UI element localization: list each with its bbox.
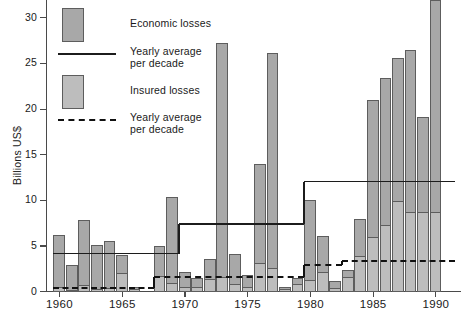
bar-1982 [329, 281, 341, 292]
legend-label-yearly-average-dashed-line1: Yearly average [130, 111, 202, 124]
bar-1971 [191, 278, 203, 292]
bar-1989 [417, 117, 429, 292]
x-tick-1975 [247, 292, 248, 297]
y-tick-10 [40, 200, 46, 201]
bar-1964 [104, 241, 116, 292]
x-tick-1965 [122, 292, 123, 297]
y-tick-label-30: 30 [10, 12, 37, 23]
bar-1980 [304, 200, 316, 292]
y-tick-5 [40, 245, 46, 246]
bar-segment-insured-1977 [267, 268, 279, 292]
legend-label-economic-losses: Economic losses [130, 17, 211, 30]
y-tick-20 [40, 109, 46, 110]
bar-segment-economic-1964 [104, 241, 116, 292]
bar-segment-insured-1986 [380, 225, 392, 292]
bar-segment-insured-1969 [166, 283, 178, 292]
y-tick-label-5: 5 [10, 240, 37, 251]
legend-swatch-economic-icon [62, 8, 84, 42]
bar-segment-insured-1983 [342, 277, 354, 292]
legend-label-yearly-average-solid-line1: Yearly average [130, 45, 202, 58]
bar-segment-insured-1980 [304, 280, 316, 292]
legend-label-insured-losses: Insured losses [130, 84, 200, 97]
avg-solid-segment-1 [179, 223, 305, 225]
x-tick-label-1980: 1980 [288, 298, 334, 310]
avg-dashed-riser-3 [341, 261, 343, 265]
y-tick-label-25: 25 [10, 57, 37, 68]
x-tick-1990 [435, 292, 436, 297]
bar-segment-economic-1962 [78, 220, 90, 292]
bar-1988 [405, 50, 417, 292]
bar-segment-economic-1977 [267, 53, 279, 292]
bar-segment-insured-1978 [279, 289, 291, 292]
bar-segment-insured-1990 [430, 212, 442, 292]
x-tick-label-1965: 1965 [99, 298, 145, 310]
y-tick-30 [40, 17, 46, 18]
y-tick-25 [40, 63, 46, 64]
x-tick-1985 [373, 292, 374, 297]
x-tick-label-1985: 1985 [350, 298, 396, 310]
legend-dashed-line-icon [58, 119, 116, 121]
x-tick-1960 [59, 292, 60, 297]
bar-segment-insured-1982 [329, 288, 341, 292]
x-tick-label-1990: 1990 [413, 298, 459, 310]
bar-1970 [179, 272, 191, 292]
bar-1985 [367, 100, 379, 293]
legend-item-yearly-average-dashed: Yearly average per decade [62, 112, 252, 146]
bar-1962 [78, 220, 90, 292]
bar-segment-insured-1970 [179, 287, 191, 293]
avg-dashed-riser-1 [153, 277, 155, 288]
x-tick-1980 [310, 292, 311, 297]
bar-segment-economic-1960 [53, 235, 65, 293]
bar-segment-insured-1985 [367, 237, 379, 292]
y-tick-label-0: 0 [10, 286, 37, 297]
avg-dashed-segment-3 [342, 260, 455, 262]
bar-segment-insured-1989 [417, 212, 429, 292]
bar-1979 [292, 278, 304, 292]
avg-dashed-segment-1 [154, 276, 305, 278]
plot-area [47, 0, 461, 292]
losses-bar-chart: 051015202530 Billions US$ 19601965197019… [0, 0, 461, 316]
avg-solid-riser-2 [303, 182, 305, 225]
bar-1983 [342, 270, 354, 292]
bar-segment-insured-1971 [191, 287, 203, 292]
bar-1987 [392, 58, 404, 292]
legend-solid-line-icon [58, 53, 116, 55]
bar-segment-insured-1966 [129, 289, 141, 292]
x-tick-label-1970: 1970 [162, 298, 208, 310]
bar-1960 [53, 235, 65, 293]
bar-segment-insured-1988 [405, 212, 417, 292]
y-axis-title: Billions US$ [11, 126, 23, 185]
legend-label-yearly-average-solid-line2: per decade [130, 57, 184, 70]
bar-segment-economic-1980 [304, 200, 316, 292]
bar-segment-insured-1973 [216, 277, 228, 292]
legend-item-economic-losses: Economic losses [62, 8, 252, 42]
bar-segment-insured-1987 [392, 201, 404, 292]
bar-1974 [229, 254, 241, 292]
legend-label-yearly-average-dashed-line2: per decade [130, 123, 184, 136]
bar-segment-insured-1972 [204, 279, 216, 292]
legend-swatch-insured-icon [62, 75, 84, 109]
bar-segment-insured-1974 [229, 284, 241, 292]
legend-item-insured-losses: Insured losses [62, 75, 252, 109]
x-tick-1970 [184, 292, 185, 297]
bar-segment-insured-1981 [317, 272, 329, 292]
bar-1978 [279, 287, 291, 292]
bar-segment-insured-1963 [91, 289, 103, 292]
bar-1976 [254, 164, 266, 292]
bar-1990 [430, 0, 442, 292]
avg-dashed-segment-0 [53, 287, 153, 289]
bar-1977 [267, 53, 279, 292]
y-tick-15 [40, 154, 46, 155]
y-tick-label-20: 20 [10, 103, 37, 114]
avg-solid-segment-0 [53, 253, 179, 255]
bar-segment-insured-1979 [292, 284, 304, 292]
bar-segment-insured-1975 [242, 287, 254, 293]
avg-dashed-riser-2 [303, 265, 305, 278]
x-tick-label-1960: 1960 [37, 298, 83, 310]
y-tick-label-10: 10 [10, 194, 37, 205]
bar-1984 [354, 219, 366, 292]
x-tick-label-1975: 1975 [225, 298, 271, 310]
avg-solid-segment-2 [304, 181, 455, 183]
bar-segment-insured-1961 [66, 290, 78, 292]
avg-solid-riser-1 [178, 224, 180, 253]
